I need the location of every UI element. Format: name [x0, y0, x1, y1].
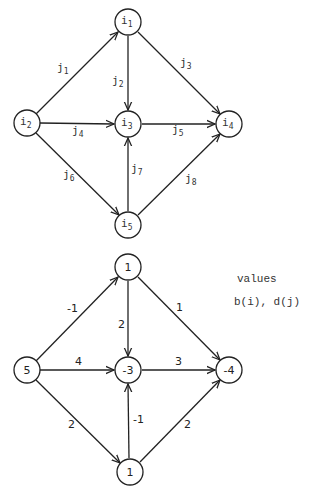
- legend: values b(i), d(j): [234, 273, 300, 308]
- node-i2: i2: [14, 110, 40, 136]
- edge-j8: [138, 134, 220, 215]
- edge-value-label-j2: 2: [118, 318, 125, 331]
- node-value-i4: -4: [216, 357, 242, 383]
- svg-text:1: 1: [127, 466, 134, 479]
- edge-j3: [138, 32, 220, 114]
- svg-text:5: 5: [24, 364, 31, 377]
- edge-value-label-j3: 1: [176, 301, 183, 314]
- edge-value-j7: [128, 384, 129, 458]
- top-graph: j1 j2 j3 j4 j5 j6 j7 j8 i1 i2 i3 i4 i5: [14, 9, 242, 238]
- edge-label-j2: j2: [112, 74, 124, 89]
- edge-label-j5: j5: [172, 123, 184, 138]
- legend-title: values: [237, 273, 277, 285]
- node-i4: i4: [216, 111, 242, 137]
- bottom-graph: -1 2 1 4 3 2 -1 2 1 5 -3 -4 1: [14, 254, 242, 485]
- edge-value-j8: [140, 380, 220, 462]
- edge-label-j1: j1: [57, 61, 69, 76]
- edge-label-j4: j4: [72, 124, 84, 139]
- node-value-i3: -3: [115, 357, 141, 383]
- node-value-i5: 1: [117, 459, 143, 485]
- network-diagrams: j1 j2 j3 j4 j5 j6 j7 j8 i1 i2 i3 i4 i5: [0, 0, 317, 494]
- svg-text:1: 1: [125, 261, 132, 274]
- node-i1: i1: [115, 9, 141, 35]
- node-i3: i3: [115, 111, 141, 137]
- edge-value-j3: [138, 277, 220, 360]
- edge-value-label-j4: 4: [75, 355, 82, 368]
- svg-text:-3: -3: [123, 364, 134, 377]
- edge-value-label-j7: -1: [133, 413, 144, 426]
- edge-label-j8: j8: [185, 172, 197, 187]
- edge-value-j1: [36, 277, 118, 361]
- node-i5: i5: [115, 212, 141, 238]
- edge-j1: [36, 32, 118, 114]
- legend-description: b(i), d(j): [234, 296, 300, 308]
- edge-label-j3: j3: [180, 56, 192, 71]
- edge-value-label-j5: 3: [175, 355, 182, 368]
- svg-text:-4: -4: [224, 364, 235, 377]
- node-value-i2: 5: [14, 357, 40, 383]
- node-value-i1: 1: [115, 254, 141, 280]
- edge-value-j6: [36, 380, 120, 463]
- edge-value-label-j1: -1: [67, 302, 78, 315]
- edge-label-j7: j7: [131, 162, 143, 177]
- edge-value-label-j6: 2: [68, 418, 75, 431]
- edge-value-label-j8: 2: [184, 418, 191, 431]
- edge-j6: [36, 133, 119, 215]
